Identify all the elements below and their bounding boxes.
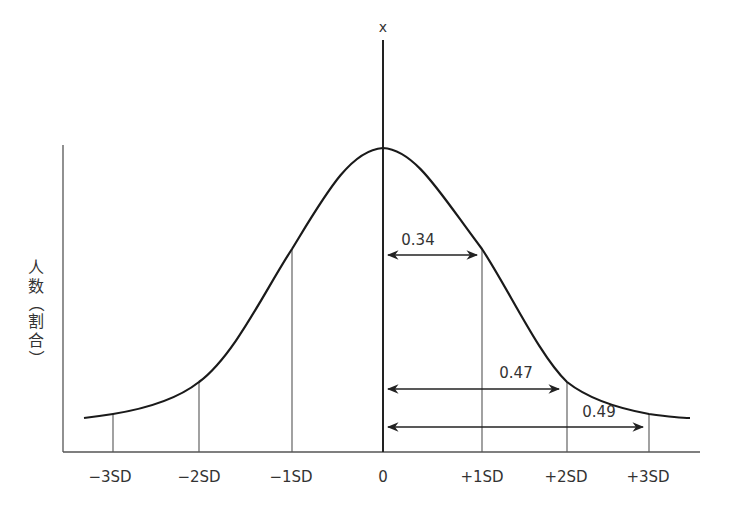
ylabel-char-3: （ <box>28 294 44 314</box>
tick-zero: 0 <box>378 468 388 486</box>
sd-lines <box>113 249 649 452</box>
ylabel-char-1: 人 <box>26 258 46 277</box>
x-axis-name: x <box>379 19 387 35</box>
normal-distribution-chart: x 0.34 0.47 0.49 −3SD −2SD −1SD 0 +1SD +… <box>0 0 733 508</box>
tick-p2sd: +2SD <box>544 468 587 486</box>
arrow-label-034: 0.34 <box>401 231 434 249</box>
ylabel-char-6: ） <box>28 348 44 368</box>
arrow-label-047: 0.47 <box>499 364 532 382</box>
x-tick-labels: −3SD −2SD −1SD 0 +1SD +2SD +3SD <box>88 468 669 486</box>
ylabel-char-4: 割 <box>26 312 46 331</box>
tick-m3sd: −3SD <box>88 468 131 486</box>
y-axis-label: 人 数 （ 割 合 ） <box>26 258 46 366</box>
tick-m1sd: −1SD <box>269 468 312 486</box>
tick-p3sd: +3SD <box>626 468 669 486</box>
bell-curve <box>84 148 690 418</box>
arrow-label-049: 0.49 <box>582 403 615 421</box>
tick-m2sd: −2SD <box>177 468 220 486</box>
tick-p1sd: +1SD <box>460 468 503 486</box>
